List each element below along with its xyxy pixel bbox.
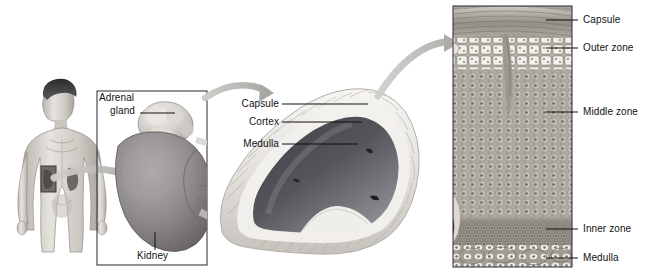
label-medulla-mid: Medulla [216,138,279,149]
label-outer-zone: Outer zone [583,42,633,53]
arrow-section-to-histology [378,34,459,96]
label-cortex: Cortex [216,116,279,127]
label-adrenal-gland-line2: gland [110,105,135,116]
label-medulla-right: Medulla [583,252,619,263]
figure-canvas: Adrenal gland Kidney Capsule Cortex Medu… [0,0,647,275]
label-inner-zone: Inner zone [583,223,631,234]
anatomy-illustration [0,0,647,275]
label-capsule-mid: Capsule [216,98,279,109]
label-adrenal-gland-line1: Adrenal [99,92,134,103]
gland-section-panel [220,89,419,256]
human-body-figure [17,79,107,252]
label-capsule-right: Capsule [583,14,620,25]
label-kidney: Kidney [137,250,168,261]
label-middle-zone: Middle zone [583,106,638,117]
